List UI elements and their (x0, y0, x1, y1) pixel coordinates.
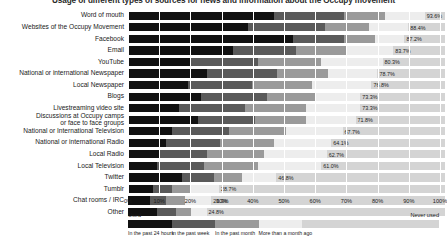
bar-segment (296, 46, 347, 54)
axis-tick-label: 80% (372, 198, 383, 204)
bar-segment (233, 46, 296, 54)
axis-tick-label: 60% (310, 198, 321, 204)
bar-container: 46.8% (128, 173, 445, 181)
value-label: 78.7% (379, 70, 394, 78)
bar-segment (128, 35, 293, 43)
stacked-bar (128, 35, 445, 43)
bar-segment (191, 185, 219, 193)
chart-row: Local Television61.0% (0, 160, 447, 172)
bar-container: 87.2% (128, 35, 445, 43)
value-label: 73.3% (362, 93, 377, 101)
value-label: 76.8% (373, 81, 388, 89)
bar-segment (172, 185, 191, 193)
bar-segment (229, 127, 286, 135)
chart-row: National or international Newspaper78.7% (0, 68, 447, 80)
bar-container: 73.3% (128, 93, 445, 101)
bar-segment (258, 58, 321, 66)
bar-segment (286, 127, 342, 135)
row-label: Websites of the Occupy Movement (0, 24, 128, 31)
bar-segment (128, 185, 153, 193)
legend-never-used-label: Never used (410, 212, 439, 218)
chart-row: National or international Radio64.1% (0, 137, 447, 149)
bar-segment (258, 162, 321, 170)
bar-segment (220, 139, 274, 147)
stacked-bar (128, 12, 445, 20)
bar-container: 80.3% (128, 58, 445, 66)
bar-segment (293, 35, 344, 43)
bar-container: 61.0% (128, 162, 445, 170)
legend-swatch (302, 220, 439, 228)
bar-segment (321, 162, 445, 170)
bar-segment (375, 35, 404, 43)
bar-segment (276, 173, 445, 181)
bar-segment (219, 185, 445, 193)
bar-segment (347, 46, 394, 54)
axis-tick-label: 70% (341, 198, 352, 204)
axis-tick-label: 0% (124, 198, 132, 204)
chart-row: National or International Television67.7… (0, 125, 447, 137)
stacked-bar (128, 150, 445, 158)
bar-segment (128, 162, 157, 170)
legend-label: In the past week (172, 230, 210, 236)
bar-container: 71.8% (128, 116, 445, 124)
value-label: 64.1% (333, 139, 348, 147)
value-label: 73.3% (362, 104, 377, 112)
bar-container: 67.7% (128, 127, 445, 135)
bar-container: 93.6% (128, 12, 445, 20)
legend-swatch (215, 220, 259, 228)
row-label: National or international Newspaper (0, 70, 128, 77)
row-label: Word of mouth (0, 12, 128, 19)
axis-tick-label: 50% (278, 198, 289, 204)
row-label: Local Radio (0, 151, 128, 158)
stacked-bar (128, 69, 445, 77)
bar-segment (153, 185, 172, 193)
bar-container: 64.1% (128, 139, 445, 147)
value-label: 28.7% (221, 185, 236, 193)
bar-segment (172, 127, 229, 135)
chart-row: Local Newspaper76.8% (0, 79, 447, 91)
bar-segment (274, 12, 344, 20)
bar-container: 62.7% (128, 150, 445, 158)
value-label: 61.0% (323, 162, 338, 170)
bar-segment (157, 162, 205, 170)
bar-container: 76.8% (128, 81, 445, 89)
chart-row: Websites of the Occupy Movement88.4% (0, 22, 447, 34)
bar-segment (128, 23, 248, 31)
axis-tick-label: 40% (247, 198, 258, 204)
bar-segment (344, 35, 376, 43)
chart-row: Discussions at Occupy camps or face to f… (0, 114, 447, 126)
row-label: Facebook (0, 36, 128, 43)
row-label: Chat rooms / IRC (0, 197, 128, 204)
bar-segment (267, 93, 315, 101)
row-label: Tumblr (0, 186, 128, 193)
chart-row: Facebook87.2% (0, 33, 447, 45)
axis-tick-label: 10% (154, 198, 165, 204)
bar-segment (128, 173, 182, 181)
bar-segment (207, 69, 277, 77)
bar-segment (369, 23, 408, 31)
row-label: Local Television (0, 163, 128, 170)
bar-segment (207, 150, 264, 158)
row-label: Twitter (0, 174, 128, 181)
bar-segment (160, 150, 208, 158)
bar-segment (277, 69, 328, 77)
row-label: Discussions at Occupy camps or face to f… (0, 113, 128, 126)
stacked-bar (128, 23, 445, 31)
row-label: Local Newspaper (0, 82, 128, 89)
stacked-bar (128, 185, 445, 193)
stacked-bar (128, 81, 445, 89)
value-label: 46.8% (278, 174, 293, 182)
value-label: 83.7% (395, 47, 410, 55)
bar-segment (128, 58, 191, 66)
axis-tick-label: 90% (403, 198, 414, 204)
legend-swatch (128, 220, 172, 228)
bar-segment (128, 81, 188, 89)
bar-segment (264, 150, 326, 158)
bar-segment (214, 173, 243, 181)
bar-rows: Word of mouth93.6%Websites of the Occupy… (0, 10, 447, 196)
bar-container: 88.4% (128, 23, 445, 31)
legend-swatch (259, 220, 303, 228)
legend-swatch (172, 220, 216, 228)
bar-segment (327, 150, 445, 158)
bar-segment (315, 93, 360, 101)
